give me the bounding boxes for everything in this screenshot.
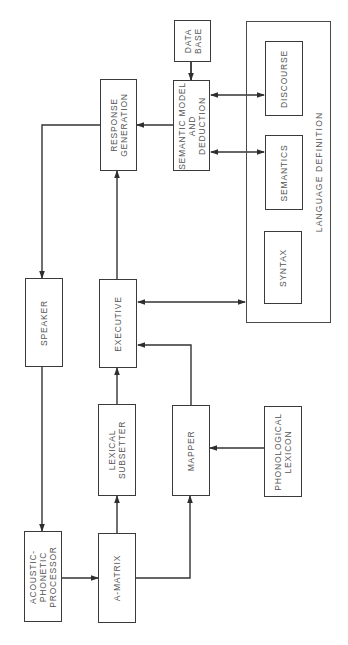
arrow-amatrix-to-mapper: [136, 496, 190, 578]
response-generation-box: RESPONSE GENERATION: [100, 79, 137, 171]
speech-understanding-system-diagram: LANGUAGE DEFINITION DISCOURSE SEMANTICS …: [0, 0, 348, 645]
lexical-subsetter-box: LEXICAL SUBSETTER: [98, 404, 136, 496]
discourse-box: DISCOURSE: [265, 41, 303, 116]
a-matrix-box: A-MATRIX: [98, 533, 136, 623]
executive-box: EXECUTIVE: [99, 279, 137, 368]
executive-label: EXECUTIVE: [113, 296, 123, 351]
acoustic-phonetic-processor-label: ACOUSTIC- PHONETIC PROCESSOR: [28, 546, 58, 608]
phonological-lexicon-label: PHONOLOGICAL LEXICON: [273, 413, 293, 491]
mapper-label: MAPPER: [186, 430, 196, 471]
discourse-label: DISCOURSE: [279, 50, 289, 108]
data-base-box: DATA BASE: [174, 20, 211, 62]
arrow-response-to-speaker: [42, 125, 100, 278]
data-base-label: DATA BASE: [183, 28, 203, 54]
semantics-label: SEMANTICS: [279, 144, 289, 201]
syntax-label: SYNTAX: [278, 248, 288, 286]
semantics-box: SEMANTICS: [265, 135, 303, 210]
syntax-box: SYNTAX: [264, 231, 302, 304]
mapper-box: MAPPER: [172, 405, 210, 496]
semantic-model-box: SEMANTIC MODEL AND DEDUCTION: [173, 80, 210, 171]
language-definition-label: LANGUAGE DEFINITION: [314, 112, 324, 233]
acoustic-phonetic-processor-box: ACOUSTIC- PHONETIC PROCESSOR: [24, 531, 62, 622]
response-generation-label: RESPONSE GENERATION: [109, 93, 129, 157]
phonological-lexicon-box: PHONOLOGICAL LEXICON: [264, 406, 302, 497]
speaker-box: SPEAKER: [25, 278, 63, 367]
a-matrix-label: A-MATRIX: [112, 555, 122, 601]
semantic-model-label: SEMANTIC MODEL AND DEDUCTION: [177, 82, 207, 170]
lexical-subsetter-label: LEXICAL SUBSETTER: [107, 421, 127, 479]
speaker-label: SPEAKER: [39, 300, 49, 346]
arrow-mapper-to-executive: [138, 345, 191, 405]
